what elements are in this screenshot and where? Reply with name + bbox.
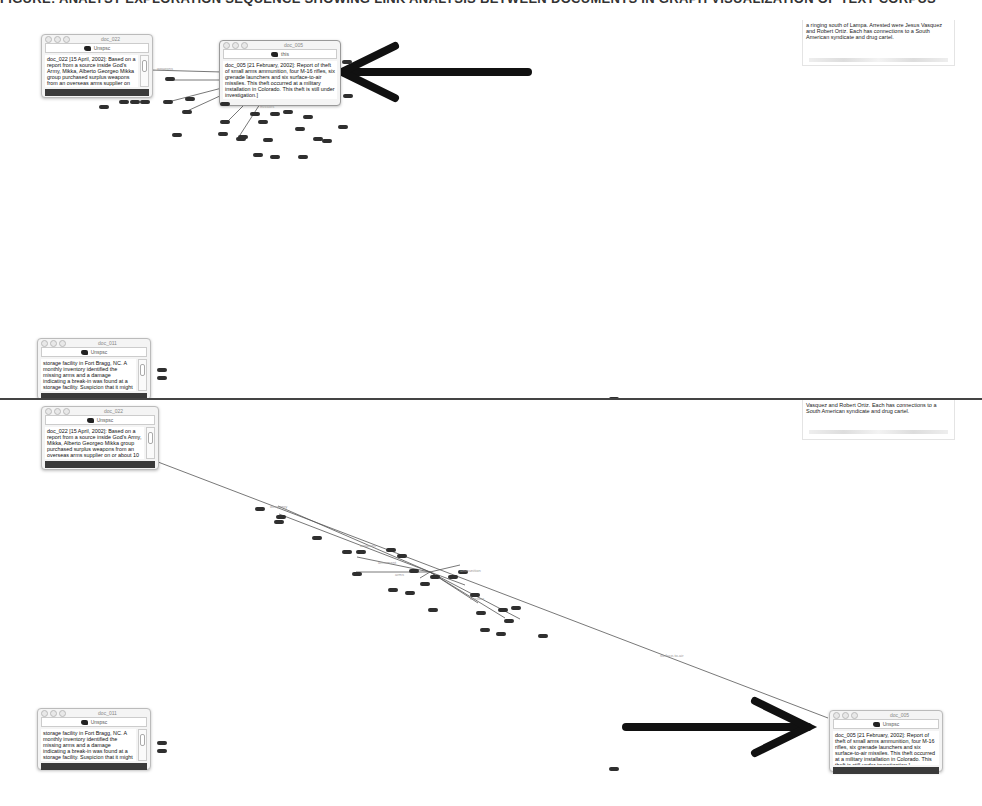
graph-node[interactable]	[430, 575, 440, 579]
graph-node[interactable]	[397, 554, 407, 558]
graph-node[interactable]	[218, 132, 228, 136]
graph-node[interactable]	[270, 112, 280, 116]
graph-node[interactable]	[157, 749, 167, 753]
zoom-icon[interactable]	[63, 36, 70, 43]
document-window-doc022[interactable]: doc_022 Unspsc doc_022 [15 April, 2002]:…	[41, 34, 153, 98]
graph-node[interactable]	[343, 94, 353, 98]
document-text: doc_005 [21 February, 2002]: Report of t…	[833, 731, 939, 765]
graph-node[interactable]	[185, 97, 195, 101]
graph-node[interactable]	[263, 138, 273, 142]
window-titlebar[interactable]: doc_005	[830, 711, 942, 719]
graph-node[interactable]	[250, 112, 260, 116]
graph-node[interactable]	[338, 125, 348, 129]
graph-node[interactable]	[165, 77, 175, 81]
document-window-fragment[interactable]: a ringing south of Lampa. Arrested were …	[802, 20, 955, 66]
graph-node[interactable]	[258, 120, 268, 124]
scrollbar[interactable]	[140, 55, 149, 87]
graph-node[interactable]	[298, 155, 308, 159]
graph-node[interactable]	[480, 628, 490, 632]
graph-node[interactable]	[448, 575, 458, 579]
document-window-storage[interactable]: doc_011 Unspsc storage facility in Fort …	[37, 338, 151, 398]
minimize-icon[interactable]	[50, 340, 57, 347]
close-icon[interactable]	[41, 340, 48, 347]
graph-node[interactable]	[253, 153, 263, 157]
document-window-storage[interactable]: doc_011 Unspsc storage facility in Fort …	[37, 708, 151, 770]
zoom-icon[interactable]	[241, 42, 248, 49]
zoom-icon[interactable]	[851, 712, 858, 719]
close-icon[interactable]	[45, 408, 52, 415]
graph-node[interactable]	[255, 507, 265, 511]
graph-node[interactable]	[388, 588, 398, 592]
graph-node[interactable]	[312, 536, 322, 540]
graph-node[interactable]	[428, 608, 438, 612]
graph-node[interactable]	[538, 634, 548, 638]
panel-before: doc_022 Unspsc doc_022 [15 April, 2002]:…	[0, 0, 982, 398]
close-icon[interactable]	[45, 36, 52, 43]
graph-node[interactable]	[140, 100, 150, 104]
graph-node[interactable]	[342, 60, 352, 64]
document-window-fragment[interactable]: Vasquez and Robert Ortiz. Each has conne…	[802, 400, 955, 440]
graph-node[interactable]	[322, 139, 332, 143]
graph-node[interactable]	[130, 100, 140, 104]
graph-node[interactable]	[342, 550, 352, 554]
graph-node[interactable]	[609, 767, 619, 771]
minimize-icon[interactable]	[54, 408, 61, 415]
edge-label: weaponry	[270, 504, 287, 509]
graph-node[interactable]	[504, 619, 514, 623]
graph-node[interactable]	[157, 741, 167, 745]
graph-node[interactable]	[386, 548, 396, 552]
close-icon[interactable]	[41, 710, 48, 717]
graph-node[interactable]	[172, 133, 182, 137]
graph-node[interactable]	[157, 368, 167, 372]
zoom-icon[interactable]	[59, 340, 66, 347]
graph-node[interactable]	[498, 608, 508, 612]
graph-node[interactable]	[303, 115, 313, 119]
graph-node[interactable]	[274, 520, 284, 524]
graph-node[interactable]	[276, 515, 286, 519]
window-titlebar[interactable]: doc_022	[42, 407, 158, 415]
doc-icon	[873, 722, 880, 727]
document-window-doc005[interactable]: doc_005 Unspsc doc_005 [21 February, 200…	[829, 710, 943, 772]
graph-node[interactable]	[420, 582, 430, 586]
scrollbar[interactable]	[138, 359, 147, 391]
graph-node[interactable]	[409, 569, 419, 573]
graph-node[interactable]	[476, 611, 486, 615]
window-titlebar[interactable]: doc_022	[42, 35, 152, 43]
document-window-doc005[interactable]: doc_005 this doc_005 [21 February, 2002]…	[219, 40, 341, 106]
document-text: storage facility in Fort Bragg, NC. A mo…	[41, 359, 136, 391]
zoom-icon[interactable]	[59, 710, 66, 717]
graph-node[interactable]	[157, 376, 167, 380]
graph-node[interactable]	[352, 572, 362, 576]
minimize-icon[interactable]	[54, 36, 61, 43]
left-arrow-icon	[342, 46, 528, 98]
graph-node[interactable]	[99, 105, 109, 109]
window-toolbar: this	[223, 49, 337, 59]
graph-node[interactable]	[356, 550, 366, 554]
graph-node[interactable]	[220, 120, 230, 124]
graph-node[interactable]	[182, 110, 192, 114]
scrollbar[interactable]	[138, 729, 147, 761]
zoom-icon[interactable]	[63, 408, 70, 415]
minimize-icon[interactable]	[50, 710, 57, 717]
document-window-doc022[interactable]: doc_022 Unspsc doc_022 [15 April, 2002]:…	[41, 406, 159, 470]
graph-node[interactable]	[496, 632, 506, 636]
window-titlebar[interactable]: doc_005	[220, 41, 340, 49]
window-titlebar[interactable]: doc_011	[38, 339, 150, 347]
graph-node[interactable]	[220, 102, 230, 106]
minimize-icon[interactable]	[232, 42, 239, 49]
graph-node[interactable]	[405, 591, 415, 595]
window-titlebar[interactable]: doc_011	[38, 709, 150, 717]
graph-node[interactable]	[283, 110, 293, 114]
close-icon[interactable]	[223, 42, 230, 49]
minimize-icon[interactable]	[842, 712, 849, 719]
graph-node[interactable]	[163, 100, 173, 104]
window-toolbar: Unspsc	[41, 717, 147, 727]
graph-node[interactable]	[119, 100, 129, 104]
graph-node[interactable]	[238, 135, 248, 139]
graph-node[interactable]	[295, 127, 305, 131]
graph-node[interactable]	[270, 155, 280, 159]
close-icon[interactable]	[833, 712, 840, 719]
document-text: doc_005 [21 February, 2002]: Report of t…	[223, 61, 337, 99]
scrollbar[interactable]	[146, 427, 155, 459]
graph-node[interactable]	[511, 606, 521, 610]
